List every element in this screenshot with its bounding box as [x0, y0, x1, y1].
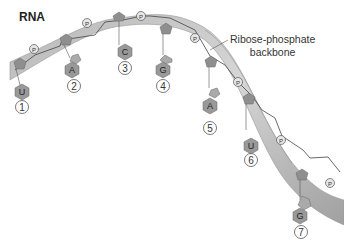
svg-text:U: U: [19, 87, 26, 97]
svg-text:7: 7: [298, 227, 304, 238]
rna-strand-graphic: P P P P P P P: [0, 0, 344, 251]
svg-text:G: G: [159, 65, 166, 75]
svg-text:U: U: [248, 141, 255, 151]
svg-text:P: P: [193, 36, 197, 42]
svg-text:6: 6: [248, 155, 254, 166]
svg-text:2: 2: [71, 81, 77, 92]
nucleotide-6: U 6: [244, 138, 258, 167]
svg-text:1: 1: [19, 102, 25, 113]
svg-text:P: P: [328, 181, 332, 187]
svg-text:C: C: [122, 47, 129, 57]
nucleotide-1: U 1: [15, 84, 29, 114]
svg-text:A: A: [207, 101, 213, 111]
svg-text:P: P: [139, 14, 143, 20]
rna-diagram: RNA Ribose-phosphate backbone P P P P P …: [0, 0, 344, 251]
nucleotide-4: G 4: [156, 55, 172, 93]
svg-text:P: P: [85, 21, 89, 27]
svg-text:A: A: [69, 65, 75, 75]
svg-text:G: G: [296, 211, 303, 221]
nucleotide-2: A 2: [65, 54, 81, 93]
svg-text:P: P: [32, 47, 36, 53]
svg-text:P: P: [279, 138, 283, 144]
svg-text:3: 3: [122, 63, 128, 74]
svg-text:5: 5: [207, 123, 213, 134]
svg-text:P: P: [236, 80, 240, 86]
nucleotide-3: C 3: [118, 44, 132, 75]
nucleotide-5: A 5: [203, 88, 220, 135]
nucleotide-7: G 7: [293, 196, 311, 239]
svg-text:4: 4: [160, 81, 166, 92]
ribose-group: [14, 12, 308, 180]
